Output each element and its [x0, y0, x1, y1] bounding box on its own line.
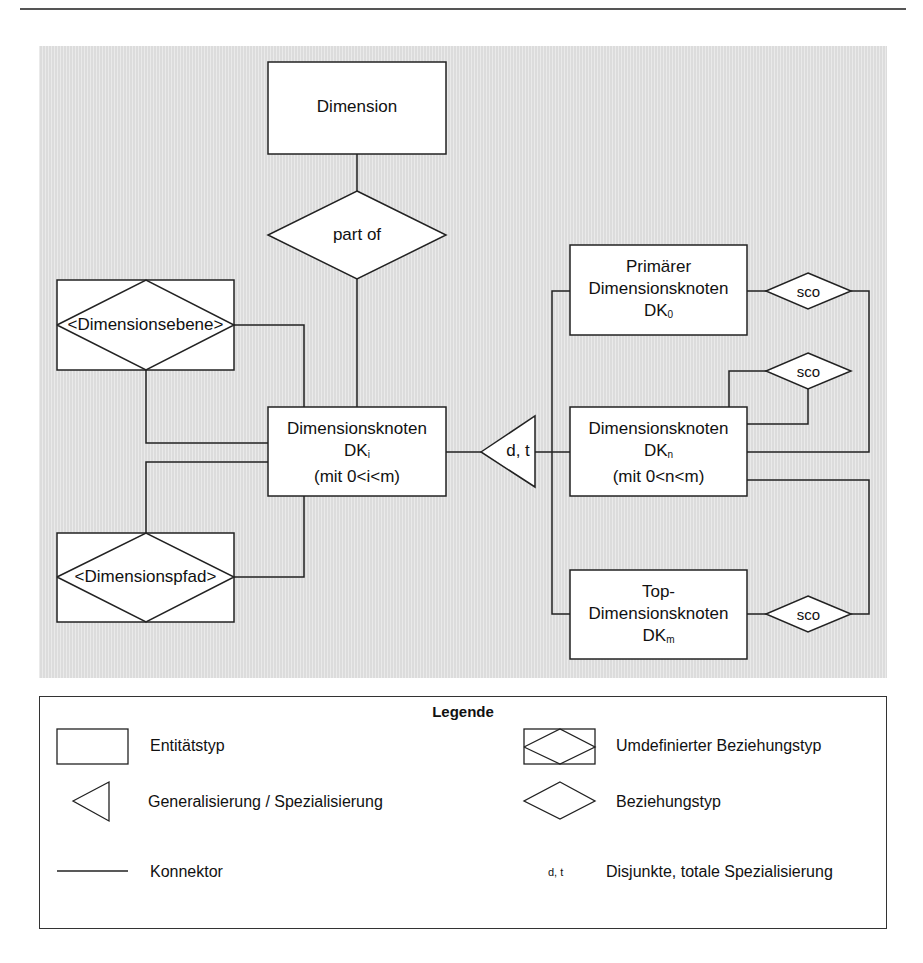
dk-n-line1: Dimensionsknoten: [570, 418, 747, 440]
dk-i-line1: Dimensionsknoten: [268, 418, 446, 440]
dk-i-subscript: i: [368, 449, 370, 460]
legend-triangle-icon: [73, 782, 109, 821]
top-dk-line2: Dimensionsknoten: [570, 603, 747, 625]
legend-item-generalization: Generalisierung / Spezialisierung: [148, 793, 383, 811]
primary-dk-line1: Primärer: [570, 256, 747, 278]
connectors: [146, 154, 869, 614]
primary-dk-line2: Dimensionsknoten: [570, 278, 747, 300]
primary-dk-symbol: DK: [644, 301, 668, 320]
legend-rectangle-icon: [57, 729, 128, 764]
primary-dk-line3: DK0: [570, 300, 747, 326]
legend-rect-diamond-icon: [524, 729, 595, 764]
top-dk-subscript: m: [666, 634, 674, 645]
dimensionspfad-label: <Dimensionspfad>: [52, 566, 239, 588]
dk-n-symbol: DK: [644, 441, 668, 460]
top-dk-line3: DKm: [570, 625, 747, 651]
dk-i-symbol: DK: [344, 441, 368, 460]
legend-item-entity: Entitätstyp: [150, 737, 225, 755]
legend-item-connector: Konnektor: [150, 863, 223, 881]
sco-2-label: sco: [766, 361, 851, 383]
legend: Legende Entitätstyp Umdefinierter Bezieh…: [39, 696, 887, 929]
dk-i-line2: DKi: [268, 440, 446, 466]
dk-n-label: Dimensionsknoten DKn (mit 0<n<m): [570, 418, 747, 488]
sco-1-label: sco: [766, 281, 851, 303]
dk-i-line3: (mit 0<i<m): [268, 466, 446, 488]
legend-diamond-icon: [524, 782, 595, 819]
top-dk-line1: Top-: [570, 581, 747, 603]
sco-3-label: sco: [766, 604, 851, 626]
dk-n-subscript: n: [668, 449, 674, 460]
part-of-label: part of: [268, 224, 446, 246]
legend-item-redefined-relationship: Umdefinierter Beziehungstyp: [616, 737, 821, 755]
legend-symbols: [40, 697, 886, 928]
top-dk-symbol: DK: [643, 626, 667, 645]
dk-i-label: Dimensionsknoten DKi (mit 0<i<m): [268, 418, 446, 488]
dk-n-line2: DKn: [570, 440, 747, 466]
legend-item-disjoint-total: Disjunkte, totale Spezialisierung: [606, 863, 833, 881]
legend-dt-symbol: d, t: [548, 866, 563, 878]
primary-dk-label: Primärer Dimensionsknoten DK0: [570, 256, 747, 326]
legend-item-relationship: Beziehungstyp: [616, 793, 721, 811]
dk-n-line3: (mit 0<n<m): [570, 466, 747, 488]
specialization-label: d, t: [498, 440, 538, 462]
top-dk-label: Top- Dimensionsknoten DKm: [570, 581, 747, 651]
entity-dimension-label: Dimension: [268, 96, 446, 118]
dimensionsebene-label: <Dimensionsebene>: [52, 314, 239, 336]
primary-dk-subscript: 0: [668, 309, 674, 320]
